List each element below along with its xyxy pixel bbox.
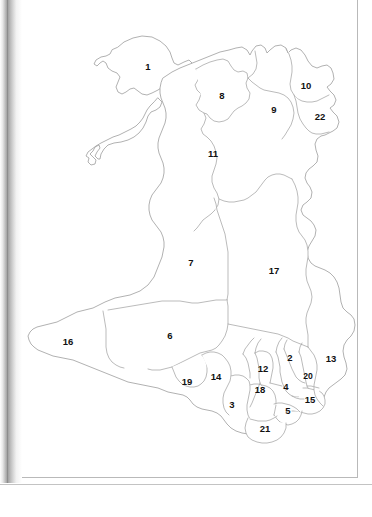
region-label-6: 6 bbox=[167, 331, 172, 341]
region-label-16: 16 bbox=[63, 337, 74, 347]
region-label-15: 15 bbox=[305, 395, 316, 405]
region-label-11: 11 bbox=[208, 149, 218, 159]
region-label-1: 1 bbox=[145, 62, 150, 72]
region-label-18: 18 bbox=[255, 385, 266, 395]
region-label-5: 5 bbox=[285, 406, 290, 416]
scanned-page: 1 8 10 9 22 11 7 17 16 6 13 2 12 20 14 1… bbox=[0, 0, 372, 517]
coastline-mainland bbox=[86, 98, 162, 165]
region-label-14: 14 bbox=[211, 372, 222, 382]
scan-gutter-line bbox=[7, 0, 8, 483]
region-label-21: 21 bbox=[260, 424, 271, 434]
region-label-13: 13 bbox=[326, 354, 337, 364]
region-label-20: 20 bbox=[303, 372, 313, 381]
region-label-4: 4 bbox=[283, 382, 288, 392]
map-figure bbox=[0, 0, 372, 517]
region-label-7: 7 bbox=[188, 258, 193, 268]
scan-gutter-shadow bbox=[0, 0, 22, 483]
region-label-2: 2 bbox=[287, 353, 292, 363]
region-label-8: 8 bbox=[219, 91, 224, 101]
region-label-3: 3 bbox=[229, 400, 234, 410]
region-label-12: 12 bbox=[258, 364, 269, 374]
region-label-22: 22 bbox=[315, 112, 326, 122]
region-label-9: 9 bbox=[271, 105, 276, 115]
region-label-10: 10 bbox=[301, 81, 312, 91]
map-outline-svg bbox=[0, 0, 372, 517]
region-label-17: 17 bbox=[269, 266, 280, 276]
region-label-19: 19 bbox=[182, 377, 193, 387]
